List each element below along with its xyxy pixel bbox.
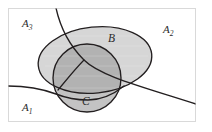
- set-label-b: B: [108, 32, 115, 44]
- figure-container: A3 A2 A1 B C: [0, 0, 212, 132]
- venn-region-diagram: A3 A2 A1 B C: [0, 0, 212, 132]
- set-label-c: C: [82, 95, 90, 107]
